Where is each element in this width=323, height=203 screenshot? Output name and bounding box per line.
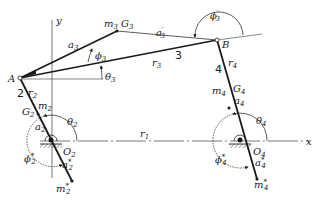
G2-label: G2: [22, 106, 35, 119]
r3-label: r3: [152, 57, 162, 70]
m4-star-label: m*4: [254, 178, 268, 192]
phi4-star-label: ϕ*4: [215, 153, 227, 167]
link4-number: 4: [215, 63, 222, 76]
theta4-label: θ4: [256, 115, 267, 128]
phi3-arc: [88, 49, 92, 62]
link3-a3prime-segment: [117, 31, 217, 40]
x-axis-label: x: [306, 136, 312, 147]
m2-star-label: m*2: [56, 182, 71, 196]
y-axis-label: y: [55, 15, 62, 26]
r4-label: r4: [228, 57, 237, 70]
phi3-label: ϕ3: [95, 50, 107, 63]
a2-label: a2: [35, 121, 46, 134]
link3-r3-segment: [20, 40, 217, 78]
center-of-mass-G2: [37, 113, 40, 116]
theta2-label: θ2: [67, 116, 78, 129]
center-of-mass-G4: [228, 107, 231, 110]
ground-pivot-O2: [40, 135, 62, 148]
m2-label: m2: [38, 100, 52, 113]
mass-point-m2-star: [70, 179, 73, 182]
m4-label: m4: [212, 85, 226, 98]
a2-star-label: a*2: [62, 158, 73, 172]
a4-star-label: a*4: [255, 156, 266, 170]
m3-label: m3: [104, 18, 118, 31]
G3-label: G3: [121, 18, 134, 31]
a3-label: a3: [68, 39, 79, 52]
ground-pivot-O4: [229, 135, 251, 148]
four-bar-linkage-diagram: y x 2 3 4 A B G3 m3: [0, 0, 323, 203]
point-B-label: B: [221, 39, 229, 50]
r1-label: r1: [140, 128, 149, 141]
theta3-arc: [101, 66, 102, 79]
link2-number: 2: [17, 87, 24, 100]
point-A-label: A: [7, 73, 15, 84]
a3-prime-label: a′3: [156, 26, 166, 40]
joint-B: [215, 38, 219, 42]
theta3-label: θ3: [105, 71, 116, 84]
phi2-star-label: ϕ*2: [24, 152, 36, 166]
phi3-prime-label: ϕ′3: [210, 9, 220, 23]
joint-A: [18, 76, 22, 80]
link3-number: 3: [175, 49, 182, 62]
